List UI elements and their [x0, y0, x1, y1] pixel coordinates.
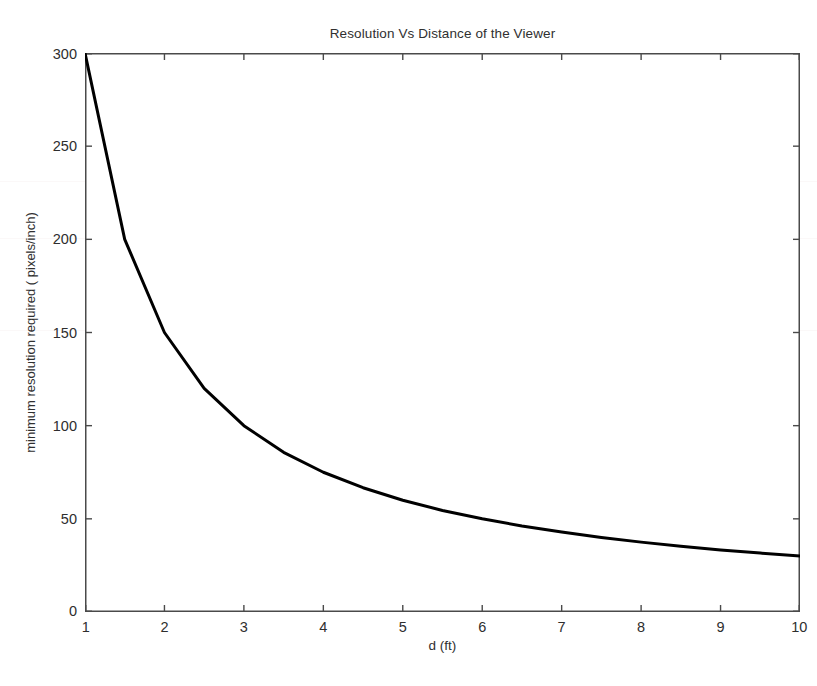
plot-svg	[85, 53, 800, 612]
x-tick-label: 4	[319, 619, 327, 635]
x-axis-ticks	[86, 53, 800, 612]
axes-box	[86, 54, 800, 612]
x-tick-label: 10	[791, 619, 807, 635]
x-tick-label: 2	[160, 619, 168, 635]
x-tick-label: 5	[399, 619, 407, 635]
x-tick-label: 9	[717, 619, 725, 635]
figure-canvas: Resolution Vs Distance of the Viewer 123…	[0, 0, 817, 686]
data-series-line	[85, 53, 800, 556]
chart-title: Resolution Vs Distance of the Viewer	[85, 26, 800, 41]
x-tick-label: 3	[240, 619, 248, 635]
x-tick-label: 6	[478, 619, 486, 635]
plot-area: 12345678910 050100150200250300	[85, 53, 800, 612]
y-axis-label: minimum resolution required ( pixels/inc…	[20, 53, 42, 612]
x-tick-label: 7	[558, 619, 566, 635]
x-tick-label: 8	[637, 619, 645, 635]
x-axis-label: d (ft)	[85, 638, 800, 653]
y-axis-ticks	[85, 54, 800, 612]
x-tick-label: 1	[82, 619, 90, 635]
